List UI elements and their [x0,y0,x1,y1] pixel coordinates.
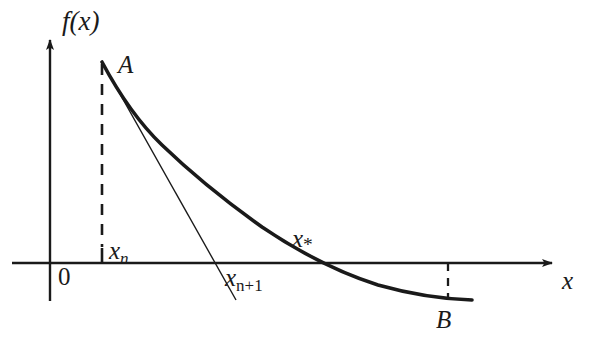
x-axis-label: x [562,268,573,293]
tick-label-xn-plus-1: xn+1 [225,265,263,294]
point-label-a: A [118,52,133,77]
xn1-base: x [225,264,236,291]
y-axis-label: f(x) [62,8,99,35]
origin-label: 0 [58,264,71,289]
newton-method-figure: f(x) A 0 xn xn+1 x* B x [0,0,595,343]
xstar-base: x [292,225,303,252]
xn1-subscript: n+1 [236,276,263,295]
point-label-b: B [436,307,451,332]
xn-subscript: n [120,249,129,268]
diagram-canvas [0,0,595,343]
function-curve [102,62,472,300]
tick-label-xn: xn [109,238,129,267]
xn-base: x [109,237,120,264]
xstar-subscript: * [303,234,313,255]
tick-label-x-star: x* [292,226,313,255]
